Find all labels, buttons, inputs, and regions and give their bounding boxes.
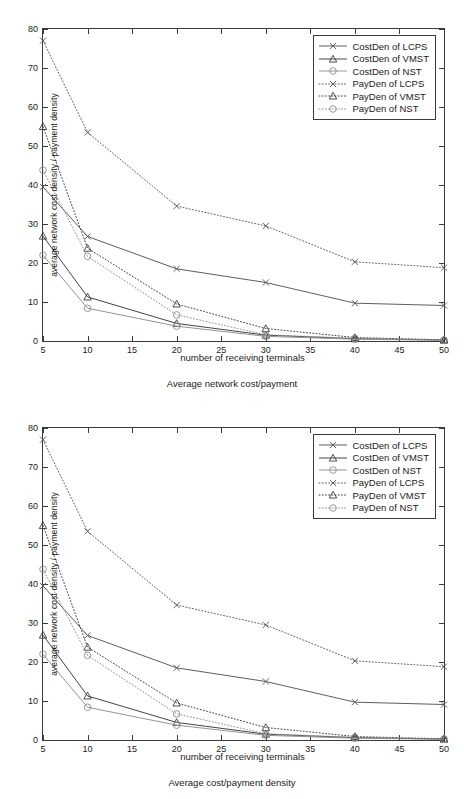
- triangle-marker: [39, 232, 46, 239]
- legend-item: PayDen of VMST: [318, 90, 429, 103]
- y-axis-tick-label: 70: [28, 462, 38, 472]
- legend-label: CostDen of VMST: [352, 53, 429, 64]
- cross-marker: [40, 38, 46, 44]
- data-series: [40, 583, 447, 708]
- cross-marker: [84, 632, 90, 638]
- circle-marker: [173, 711, 180, 718]
- plot-axes: 010203040506070805101520253035404550Cost…: [42, 28, 445, 342]
- y-axis-tick-label: 50: [28, 141, 38, 151]
- circle-marker: [173, 312, 180, 319]
- legend-swatch: [318, 53, 348, 65]
- legend-label: CostDen of VMST: [352, 452, 429, 463]
- data-series: [39, 232, 447, 343]
- chart-figure: 010203040506070805101520253035404550Cost…: [0, 0, 464, 399]
- legend-item: CostDen of NST: [318, 65, 429, 78]
- legend-item: PayDen of VMST: [318, 489, 429, 502]
- y-axis-tick-label: 40: [28, 180, 38, 190]
- figure-caption: Average network cost/payment: [0, 378, 464, 389]
- legend-swatch: [318, 489, 348, 501]
- y-axis-tick-label: 10: [28, 297, 38, 307]
- legend-item: PayDen of NST: [318, 103, 429, 116]
- legend-swatch: [318, 464, 348, 476]
- legend-label: PayDen of VMST: [352, 490, 425, 501]
- data-series: [39, 631, 447, 742]
- legend-label: PayDen of NST: [352, 103, 418, 114]
- legend-label: CostDen of NST: [352, 465, 421, 476]
- legend-item: CostDen of VMST: [318, 53, 429, 66]
- y-axis-tick-mark: [43, 341, 48, 342]
- data-series: [40, 167, 448, 343]
- y-axis-tick-label: 20: [28, 657, 38, 667]
- legend-label: CostDen of LCPS: [352, 440, 427, 451]
- data-series: [40, 184, 447, 309]
- y-axis-tick-label: 50: [28, 540, 38, 550]
- x-axis-label: number of receiving terminals: [42, 352, 443, 363]
- legend-item: CostDen of LCPS: [318, 439, 429, 452]
- plot-axes: 010203040506070805101520253035404550Cost…: [42, 427, 445, 741]
- legend-label: PayDen of VMST: [352, 91, 425, 102]
- cross-marker: [263, 622, 269, 628]
- figure-caption: Average cost/payment density: [0, 777, 464, 788]
- legend-item: PayDen of LCPS: [318, 477, 429, 490]
- y-axis-tick-label: 80: [28, 423, 38, 433]
- legend-label: PayDen of NST: [352, 502, 418, 513]
- legend-swatch: [318, 90, 348, 102]
- cross-marker: [40, 437, 46, 443]
- y-axis-tick-label: 0: [33, 735, 38, 745]
- legend-label: PayDen of LCPS: [352, 78, 424, 89]
- chart-legend: CostDen of LCPSCostDen of VMSTCostDen of…: [313, 434, 436, 519]
- cross-marker: [441, 664, 447, 670]
- x-axis-tick-mark: [444, 29, 445, 34]
- cross-marker: [84, 528, 90, 534]
- figure-page: 010203040506070805101520253035404550Cost…: [0, 0, 464, 799]
- legend-swatch: [318, 477, 348, 489]
- y-axis-tick-label: 40: [28, 579, 38, 589]
- cross-marker: [40, 184, 46, 190]
- x-axis-label: number of receiving terminals: [42, 751, 443, 762]
- y-axis-tick-label: 30: [28, 618, 38, 628]
- cross-marker: [174, 602, 180, 608]
- y-axis-tick-label: 10: [28, 696, 38, 706]
- y-axis-label: average network cost density / payment d…: [49, 29, 63, 341]
- cross-marker: [263, 223, 269, 229]
- legend-item: CostDen of NST: [318, 464, 429, 477]
- legend-label: CostDen of LCPS: [352, 41, 427, 52]
- cross-marker: [40, 583, 46, 589]
- y-axis-tick-label: 20: [28, 258, 38, 268]
- cross-marker: [174, 203, 180, 209]
- plot-area: 010203040506070805101520253035404550Cost…: [0, 0, 464, 360]
- data-series: [39, 123, 447, 343]
- cross-marker: [441, 265, 447, 271]
- legend-swatch: [318, 78, 348, 90]
- x-axis-tick-mark: [444, 428, 445, 433]
- triangle-marker: [39, 631, 46, 638]
- legend-swatch: [318, 40, 348, 52]
- y-axis-tick-mark: [43, 740, 48, 741]
- y-axis-tick-label: 60: [28, 102, 38, 112]
- chart-figure: 010203040506070805101520253035404550Cost…: [0, 399, 464, 799]
- data-series: [39, 522, 447, 742]
- plot-area: 010203040506070805101520253035404550Cost…: [0, 399, 464, 759]
- y-axis-tick-label: 70: [28, 63, 38, 73]
- legend-item: CostDen of VMST: [318, 452, 429, 465]
- y-axis-tick-label: 30: [28, 219, 38, 229]
- legend-item: CostDen of LCPS: [318, 40, 429, 53]
- legend-swatch: [318, 65, 348, 77]
- legend-swatch: [318, 103, 348, 115]
- legend-item: PayDen of LCPS: [318, 78, 429, 91]
- chart-legend: CostDen of LCPSCostDen of VMSTCostDen of…: [313, 35, 436, 120]
- y-axis-label: average network cost density / payment d…: [49, 428, 63, 740]
- y-axis-tick-label: 60: [28, 501, 38, 511]
- cross-marker: [84, 233, 90, 239]
- legend-label: PayDen of LCPS: [352, 477, 424, 488]
- data-series: [40, 566, 448, 742]
- legend-item: PayDen of NST: [318, 502, 429, 515]
- legend-swatch: [318, 439, 348, 451]
- cross-marker: [84, 129, 90, 135]
- y-axis-tick-label: 80: [28, 24, 38, 34]
- legend-swatch: [318, 452, 348, 464]
- legend-swatch: [318, 502, 348, 514]
- y-axis-tick-label: 0: [33, 336, 38, 346]
- legend-label: CostDen of NST: [352, 66, 421, 77]
